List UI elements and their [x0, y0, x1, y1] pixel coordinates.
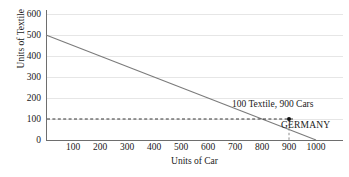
- chart-series-layer: [0, 0, 349, 177]
- point-annotation: 100 Textile, 900 Cars: [232, 100, 313, 110]
- chart-screenshot: 600 500 400 300 200 100 0 100 200 300 40…: [0, 0, 349, 177]
- country-annotation: GERMANY: [281, 121, 330, 131]
- ppf-line: [46, 35, 316, 140]
